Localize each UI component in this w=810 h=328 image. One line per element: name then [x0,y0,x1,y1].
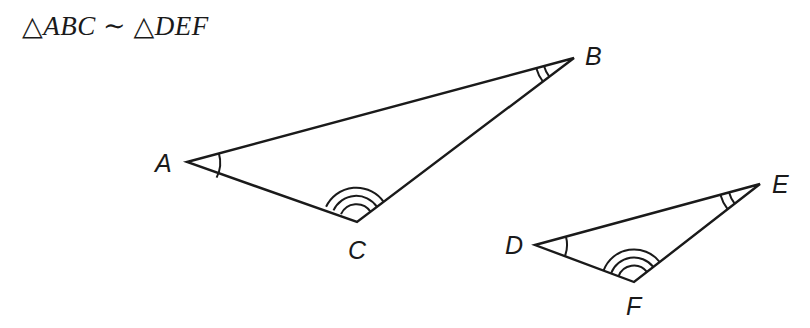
vertex-label-e: E [772,172,789,197]
vertex-label-b: B [585,44,602,69]
vertex-label-d: D [505,233,523,258]
angle-mark-c-1 [341,204,371,214]
vertex-label-a: A [155,151,172,176]
angle-mark-b-2 [536,68,543,81]
vertex-label-f: F [626,294,641,319]
angle-mark-e-2 [720,195,727,209]
triangle-def [535,184,760,282]
triangles-figure [0,0,810,328]
angle-mark-e-1 [729,192,735,203]
vertex-label-c: C [348,238,366,263]
angle-mark-c-2 [334,196,378,211]
angle-mark-d [565,237,567,257]
angle-mark-b-1 [544,66,549,77]
